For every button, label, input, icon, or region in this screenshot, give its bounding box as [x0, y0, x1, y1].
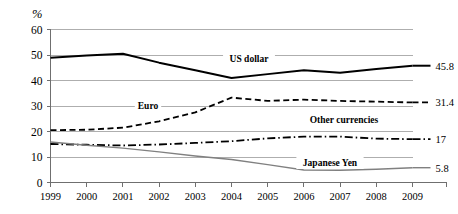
x-axis-tick-label: 2003	[185, 191, 206, 202]
x-axis-tick-label: 2004	[221, 191, 243, 202]
chart-series-lines	[51, 54, 431, 171]
end-value-label-us-dollar: 45.8	[436, 61, 454, 72]
y-axis-tick-label: 30	[31, 100, 43, 112]
end-value-label-euro: 31.4	[436, 97, 455, 108]
x-axis-tick-label: 2002	[149, 191, 170, 202]
x-axis-tick-label: 2009	[402, 191, 423, 202]
x-axis-tick-label: 2008	[366, 191, 387, 202]
chart-series-labels: US dollarEuroOther currenciesJapanese Ye…	[135, 53, 388, 169]
line-chart: 0102030405060 19992000200120022003200420…	[0, 0, 458, 214]
x-axis-tick-label: 2007	[330, 191, 351, 202]
y-axis-tick-labels: 0102030405060	[31, 24, 43, 189]
series-label-japanese-yen: Japanese Yen	[303, 158, 358, 168]
x-axis-tick-label: 2005	[257, 191, 278, 202]
series-label-us-dollar: US dollar	[230, 54, 270, 64]
y-axis-tick-label: 20	[31, 126, 43, 138]
x-axis-tick-labels: 1999200020012002200320042005200620072008…	[40, 191, 423, 202]
y-axis-tick-label: 50	[31, 49, 43, 61]
chart-axis	[51, 29, 447, 183]
chart-ticks	[51, 183, 447, 187]
x-axis-tick-label: 2006	[293, 191, 314, 202]
y-axis-tick-label: 0	[37, 177, 43, 189]
y-axis-tick-label: 10	[31, 151, 43, 163]
y-axis-tick-label: 40	[31, 75, 43, 87]
x-axis-tick-label: 2001	[112, 191, 133, 202]
series-label-other-currencies: Other currencies	[310, 115, 379, 125]
series-line-other-currencies	[51, 137, 413, 146]
y-axis-unit-label: %	[32, 7, 42, 21]
chart-container: 0102030405060 19992000200120022003200420…	[0, 0, 458, 214]
series-label-euro: Euro	[138, 101, 159, 111]
chart-end-value-labels: 45.831.4175.8	[436, 61, 455, 174]
y-axis-tick-label: 60	[31, 24, 43, 36]
end-value-label-japanese-yen: 5.8	[436, 163, 449, 174]
x-axis-tick-label: 1999	[40, 191, 61, 202]
x-axis-tick-label: 2000	[76, 191, 97, 202]
end-value-label-other-currencies: 17	[436, 134, 447, 145]
